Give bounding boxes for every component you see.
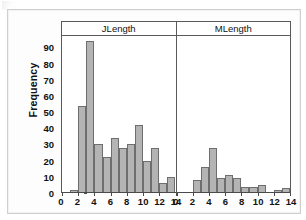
x-tick-label: 6: [223, 196, 228, 207]
plot-area: Frequency 0102030405060708090 JLengthMLe…: [8, 10, 300, 213]
histogram-bar: [127, 144, 135, 193]
y-tick-label: 50: [43, 107, 54, 118]
histogram-bar: [119, 148, 127, 193]
histogram-bar: [94, 144, 102, 193]
x-tick-label: 8: [124, 196, 129, 207]
histogram-bar: [217, 178, 225, 193]
x-tick-label: 4: [206, 196, 211, 207]
y-tick-label: 0: [49, 188, 54, 199]
panels-container: [61, 36, 291, 193]
y-tick-label: 40: [43, 123, 54, 134]
y-tick-label: 30: [43, 139, 54, 150]
panel-header-strip: JLengthMLength: [61, 21, 291, 36]
panel-header-jlength: JLength: [61, 21, 176, 36]
x-tick-label: 10: [253, 196, 264, 207]
panel-mlength: [176, 36, 292, 193]
panel-header-mlength: MLength: [176, 21, 292, 36]
histogram-bar: [111, 138, 119, 193]
x-tick-label: 2: [190, 196, 195, 207]
y-tick-label: 20: [43, 155, 54, 166]
y-tick-label: 80: [43, 58, 54, 69]
y-tick-label: 90: [43, 42, 54, 53]
histogram-bar: [225, 175, 233, 193]
y-tick-label: 70: [43, 74, 54, 85]
x-tick-label: 2: [75, 196, 80, 207]
y-axis-ticks: 0102030405060708090: [34, 10, 58, 213]
histogram-bar: [209, 148, 217, 193]
panel-jlength: [61, 36, 176, 193]
x-tick-label: 4: [91, 196, 96, 207]
panel-plot-jlength: [62, 36, 176, 193]
x-tick-label: 12: [154, 196, 165, 207]
x-axis-labels: 0246810121402468101214: [61, 196, 291, 210]
histogram-bar: [103, 157, 111, 193]
x-tick-label: 14: [286, 196, 297, 207]
x-tick-label: 0: [58, 196, 63, 207]
histogram-bar: [167, 177, 175, 193]
chart-frame: Frequency 0102030405060708090 JLengthMLe…: [7, 9, 301, 214]
x-axis-labels-jlength: 02468101214: [61, 196, 176, 210]
histogram-bar: [201, 167, 209, 193]
x-tick-label: 10: [138, 196, 149, 207]
histogram-bar: [135, 125, 143, 193]
x-tick-label: 6: [108, 196, 113, 207]
histogram-bar: [233, 178, 241, 193]
panel-plot-mlength: [177, 36, 291, 193]
histogram-bar: [151, 148, 159, 193]
x-tick-label: 12: [269, 196, 280, 207]
histogram-bar: [143, 161, 151, 193]
histogram-bar: [86, 41, 94, 193]
histogram-bar: [78, 106, 86, 193]
y-tick-label: 10: [43, 171, 54, 182]
x-tick-label: 8: [239, 196, 244, 207]
x-tick-label: 0: [173, 196, 178, 207]
y-tick-label: 60: [43, 90, 54, 101]
x-axis-labels-mlength: 02468101214: [176, 196, 291, 210]
